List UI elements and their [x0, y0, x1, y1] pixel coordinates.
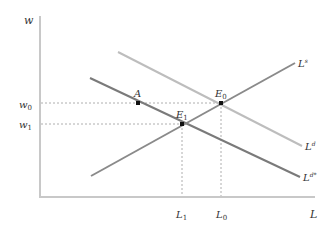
point-E1: [180, 122, 184, 126]
supply-curve: [91, 63, 295, 176]
shifted-demand-curve: [90, 78, 300, 177]
demand-curve: [118, 52, 302, 146]
label-E0: E0: [214, 88, 227, 101]
point-E0: [219, 101, 223, 105]
x-axis-label: L: [309, 208, 317, 221]
tick-w1: w1: [19, 119, 32, 132]
label-supply: Ls: [297, 57, 308, 69]
tick-L0: L0: [215, 209, 227, 222]
tick-L1: L1: [175, 209, 187, 222]
label-shifted-demand: Ld*: [302, 171, 316, 183]
labor-market-diagram: w L w0 w1 L1 L0 A E0 E1 Ls Ld Ld*: [0, 0, 333, 228]
label-demand: Ld: [304, 140, 316, 152]
point-A: [136, 101, 140, 105]
y-axis-label: w: [24, 14, 34, 27]
label-A: A: [133, 88, 141, 99]
tick-w0: w0: [19, 99, 32, 112]
